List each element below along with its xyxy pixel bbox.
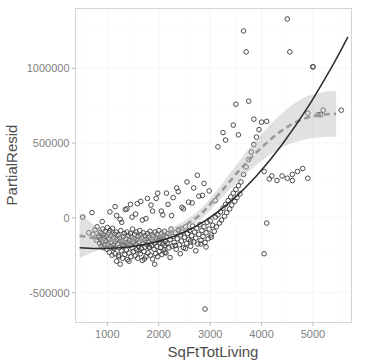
x-tick-label: 1000 (95, 328, 119, 340)
y-axis-ticks: -50000005000001000000 (27, 62, 76, 298)
x-tick-label: 4000 (249, 328, 273, 340)
partial-residual-plot: 10002000300040005000 -500000050000010000… (0, 0, 365, 363)
y-tick-label: -500000 (29, 287, 69, 299)
x-tick-label: 3000 (198, 328, 222, 340)
x-axis-ticks: 10002000300040005000 (95, 323, 325, 340)
x-tick-label: 5000 (301, 328, 325, 340)
y-tick-label: 0 (63, 212, 69, 224)
x-tick-label: 2000 (147, 328, 171, 340)
y-tick-label: 500000 (33, 137, 70, 149)
x-axis-title: SqFtTotLiving (168, 343, 259, 360)
y-tick-label: 1000000 (27, 62, 70, 74)
plot-panel-background (76, 9, 352, 323)
chart-canvas: 10002000300040005000 -500000050000010000… (0, 0, 365, 363)
y-axis-title: PartialResid (3, 125, 20, 206)
